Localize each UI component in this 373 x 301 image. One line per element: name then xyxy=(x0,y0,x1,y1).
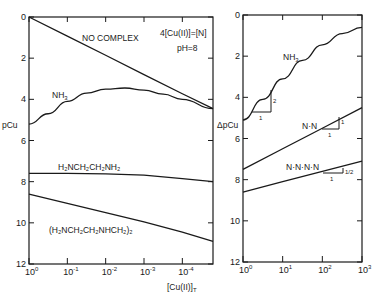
svg-text:1: 1 xyxy=(259,115,263,121)
label-nh3-right: NH3 xyxy=(283,52,299,63)
chart-figure: 02468101210010-110-210-310-4 02468101210… xyxy=(0,0,373,301)
svg-text:1: 1 xyxy=(330,176,334,182)
y-tick-label: 4 xyxy=(235,92,240,102)
x-tick-label: 103 xyxy=(358,264,372,275)
y-tick-label: 0 xyxy=(235,10,240,20)
y-tick-label: 10 xyxy=(16,218,26,228)
x-tick-label: 10-3 xyxy=(140,266,156,277)
x-tick-label: 10-2 xyxy=(102,266,118,277)
label-nnnn: N·N·N·N xyxy=(286,162,319,172)
y-tick-label: 8 xyxy=(21,177,26,187)
y-tick-label: 6 xyxy=(235,134,240,144)
label-no-complex: NO COMPLEX xyxy=(82,33,139,43)
svg-text:2: 2 xyxy=(273,98,277,104)
right-plot: 024681012100101102103 xyxy=(230,10,372,275)
svg-text:1/2: 1/2 xyxy=(345,169,354,175)
x-tick-label: 101 xyxy=(279,264,293,275)
y-tick-label: 4 xyxy=(21,94,26,104)
label-trien: (H₂NCH₂CH₂NHCH₂)₂ xyxy=(49,225,133,235)
y-tick-label: 2 xyxy=(21,53,26,63)
y-tick-label: 8 xyxy=(235,175,240,185)
right-y-axis-label: ΔpCu xyxy=(217,120,239,130)
svg-text:1: 1 xyxy=(328,132,332,138)
svg-text:1: 1 xyxy=(341,119,345,125)
x-tick-label: 100 xyxy=(25,266,39,277)
left-y-axis-label: pCu xyxy=(2,120,18,130)
series-line xyxy=(243,27,362,120)
x-tick-label: 10-4 xyxy=(178,266,194,277)
annotation-ph: pH=8 xyxy=(177,43,198,53)
y-tick-label: 2 xyxy=(235,51,240,61)
series-line xyxy=(29,173,213,181)
x-tick-label: 102 xyxy=(318,264,332,275)
y-tick-label: 6 xyxy=(21,136,26,146)
annotation-equation: 4[Cu(II)]=[N] xyxy=(160,28,207,38)
label-en: H₂NCH₂CH₂NH₂ xyxy=(58,162,120,172)
x-tick-label: 10-1 xyxy=(63,266,79,277)
y-tick-label: 0 xyxy=(21,12,26,22)
x-tick-label: 100 xyxy=(239,264,253,275)
label-nn: N·N xyxy=(302,121,317,131)
y-tick-label: 10 xyxy=(230,216,240,226)
chart-labels: pCu ΔpCu 4[Cu(II)]=[N] pH=8 NO COMPLEX N… xyxy=(2,28,319,293)
x-axis-label: [Cu(II)]T xyxy=(167,282,197,293)
label-nh3-left: NH3 xyxy=(52,90,68,101)
